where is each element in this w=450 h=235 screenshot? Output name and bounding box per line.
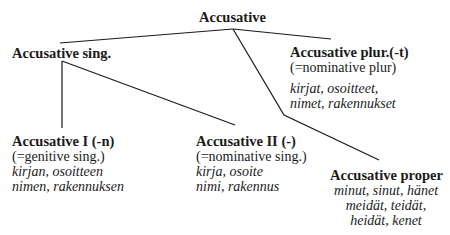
node-accusative-sing: Accusative sing. [12, 46, 111, 61]
node-accusative: Accusative [199, 10, 266, 25]
node-accusative-proper: Accusative proper minut, sinut, hänet me… [330, 168, 442, 228]
node-example: nimi, rakennus [196, 179, 307, 194]
node-example: heidät, kenet [330, 213, 442, 228]
node-title: Accusative proper [330, 168, 442, 183]
node-example: nimen, rakennuksen [12, 179, 124, 194]
edge-sing-to-acc2 [62, 61, 235, 125]
node-example: kirja, osoite [196, 164, 307, 179]
edge-root-to-sing [60, 29, 233, 43]
node-title: Accusative II (-) [196, 134, 307, 149]
node-accusative-ii: Accusative II (-) (=nominative sing.) ki… [196, 134, 307, 194]
node-example: minut, sinut, hänet [330, 183, 442, 198]
node-example: meidät, teidät, [330, 198, 442, 213]
node-example: kirjat, osoitteet, [290, 81, 409, 96]
node-note: (=nominative plur) [290, 60, 409, 75]
node-title: Accusative plur.(-t) [290, 45, 409, 60]
edge-root-to-plur [233, 29, 331, 39]
node-title: Accusative I (-n) [12, 134, 124, 149]
node-accusative-plur: Accusative plur.(-t) (=nominative plur) … [290, 45, 409, 111]
node-note: (=genitive sing.) [12, 149, 124, 164]
node-example: kirjan, osoitteen [12, 164, 124, 179]
node-accusative-i: Accusative I (-n) (=genitive sing.) kirj… [12, 134, 124, 194]
node-title: Accusative [199, 10, 266, 25]
node-note: (=nominative sing.) [196, 149, 307, 164]
node-example: nimet, rakennukset [290, 96, 409, 111]
node-title: Accusative sing. [12, 46, 111, 61]
